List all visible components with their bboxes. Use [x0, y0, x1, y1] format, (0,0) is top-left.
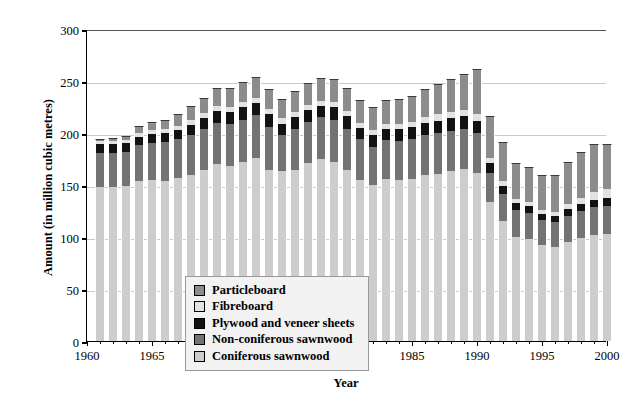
bar-segment [212, 123, 222, 165]
legend-label: Coniferous sawnwood [212, 349, 330, 364]
bar-1988 [446, 79, 456, 341]
bar-segment [173, 178, 183, 341]
bar-segment [199, 129, 209, 171]
bar-segment [472, 133, 482, 173]
x-axis-title: Year [86, 376, 606, 391]
bar-segment [368, 135, 378, 146]
bar-segment [550, 175, 560, 212]
bar-segment [264, 114, 274, 126]
bar-segment [316, 78, 326, 101]
bar-segment [238, 107, 248, 119]
bar-segment [290, 129, 300, 171]
bar-segment [173, 139, 183, 177]
x-tick-mark [152, 341, 153, 346]
bar-segment [160, 133, 170, 142]
x-tick-mark [477, 341, 478, 346]
bar-segment [407, 127, 417, 139]
x-tick-minor-mark [399, 341, 400, 344]
x-tick-label: 1995 [530, 349, 555, 364]
bar-segment [498, 194, 508, 221]
bar-segment [238, 82, 248, 102]
x-tick-minor-mark [516, 341, 517, 344]
x-tick-mark [412, 341, 413, 346]
bar-1967 [173, 114, 183, 341]
y-axis-title: Amount (in million cubic metres) [41, 48, 56, 328]
y-tick-mark [82, 238, 87, 239]
x-tick-minor-mark [529, 341, 530, 344]
bar-segment [173, 130, 183, 139]
bar-segment [394, 180, 404, 341]
bar-segment [498, 186, 508, 194]
x-tick-minor-mark [386, 341, 387, 344]
legend-label: Fibreboard [212, 299, 273, 314]
bar-segment [381, 179, 391, 341]
bar-segment [550, 222, 560, 247]
bar-segment [199, 98, 209, 114]
bar-segment [550, 247, 560, 341]
x-tick-minor-mark [139, 341, 140, 344]
bar-segment [225, 88, 235, 107]
bar-segment [563, 209, 573, 216]
bar-segment [186, 135, 196, 175]
bar-segment [394, 129, 404, 141]
bar-segment [524, 239, 534, 341]
bar-segment [524, 167, 534, 201]
bar-segment [485, 173, 495, 202]
bar-segment [225, 124, 235, 167]
x-tick-minor-mark [464, 341, 465, 344]
bar-segment [446, 171, 456, 341]
bar-1997 [563, 162, 573, 341]
bar-segment [576, 152, 586, 198]
bar-segment [238, 120, 248, 163]
bar-segment [472, 69, 482, 115]
bar-segment [602, 144, 612, 189]
legend-item-0: Particleboard [194, 282, 354, 299]
bar-segment [589, 207, 599, 235]
bar-segment [446, 118, 456, 130]
bar-segment [602, 189, 612, 197]
bar-segment [459, 116, 469, 128]
bar-segment [251, 115, 261, 158]
x-tick-label: 1965 [140, 349, 165, 364]
bar-segment [316, 117, 326, 159]
bar-segment [186, 125, 196, 135]
bar-1961 [95, 139, 105, 341]
bar-segment [459, 74, 469, 110]
bar-segment [368, 147, 378, 185]
bar-segment [524, 213, 534, 239]
bar-segment [589, 235, 599, 341]
bar-segment [498, 221, 508, 341]
x-tick-minor-mark [373, 341, 374, 344]
legend-swatch-icon [194, 301, 205, 312]
bar-segment [277, 124, 287, 135]
bar-1996 [550, 175, 560, 341]
y-tick-mark [82, 186, 87, 187]
bar-segment [589, 192, 599, 199]
bar-1991 [485, 116, 495, 341]
x-tick-minor-mark [581, 341, 582, 344]
legend-swatch-icon [194, 334, 205, 345]
bar-segment [407, 139, 417, 179]
bar-segment [95, 187, 105, 341]
bar-segment [160, 142, 170, 180]
chart-legend: ParticleboardFibreboardPlywood and venee… [185, 276, 369, 371]
bar-segment [524, 206, 534, 213]
x-tick-minor-mark [503, 341, 504, 344]
bar-segment [303, 83, 313, 105]
x-tick-label: 1960 [75, 349, 100, 364]
bar-segment [563, 216, 573, 242]
x-tick-label: 1985 [400, 349, 425, 364]
bar-segment [316, 106, 326, 117]
bar-segment [602, 234, 612, 341]
bar-segment [394, 99, 404, 124]
legend-swatch-icon [194, 318, 205, 329]
bar-1999 [589, 144, 599, 341]
bar-segment [342, 116, 352, 128]
x-tick-minor-mark [113, 341, 114, 344]
bar-1983 [381, 100, 391, 341]
bar-1995 [537, 175, 547, 341]
bar-segment [381, 129, 391, 140]
x-tick-minor-mark [425, 341, 426, 344]
bar-1966 [160, 120, 170, 342]
bar-segment [225, 112, 235, 123]
